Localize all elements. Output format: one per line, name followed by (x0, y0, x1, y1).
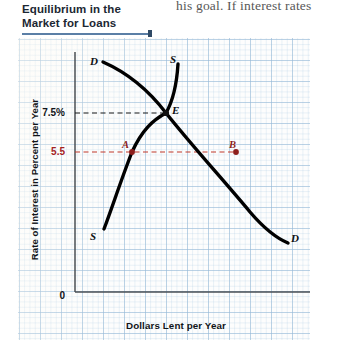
y-axis-title: Rate of Interest in Percent per Year (29, 95, 40, 265)
point-a-label: A (122, 139, 129, 150)
point-b-label: B (229, 139, 236, 150)
y-tick-label-7-5: 7.5% (10, 107, 65, 118)
supply-curve-label-top: S (170, 53, 176, 65)
demand-curve-label-top: D (90, 55, 98, 67)
x-axis-title: Dollars Lent per Year (76, 320, 276, 331)
origin-label: 0 (40, 290, 65, 301)
point-e-label: E (172, 104, 179, 116)
point-e-marker (163, 110, 169, 116)
supply-curve (104, 64, 178, 229)
point-a-marker (129, 149, 135, 155)
loan-market-chart (0, 0, 337, 362)
demand-curve-label-bottom: D (291, 232, 299, 244)
y-tick-label-5-5: 5.5 (10, 146, 65, 157)
supply-curve-label-bottom: S (90, 230, 96, 242)
